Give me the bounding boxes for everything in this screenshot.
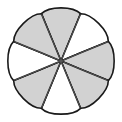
figure-canvas (0, 0, 122, 122)
rosette-diagram (0, 0, 122, 122)
